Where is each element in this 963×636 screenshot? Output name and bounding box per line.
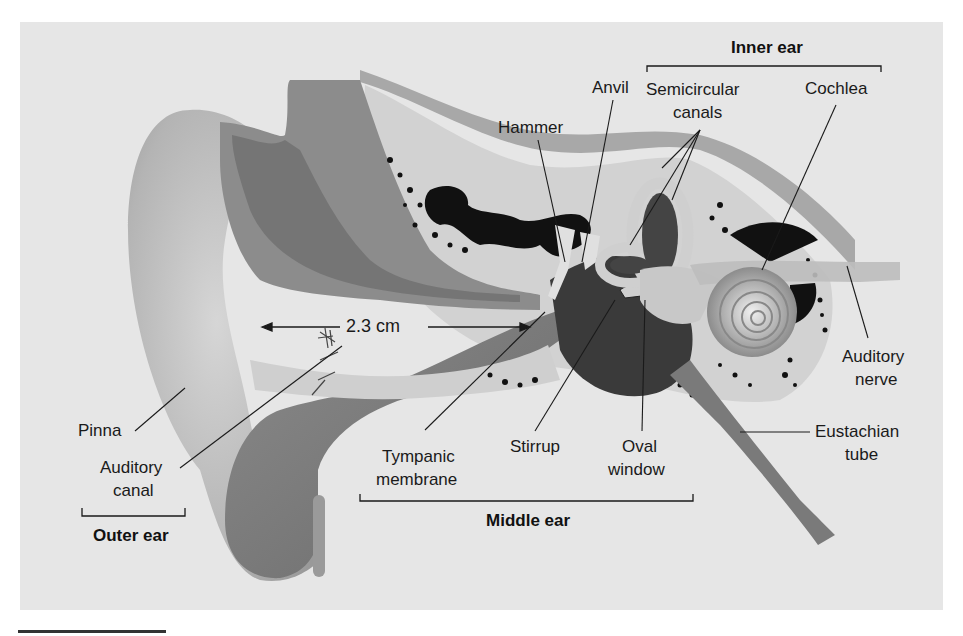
caption-rule — [18, 630, 166, 633]
label-stirrup: Stirrup — [510, 436, 560, 457]
section-middle-ear: Middle ear — [486, 511, 570, 531]
label-tympanic-line2: membrane — [376, 469, 457, 490]
label-tympanic-line1: Tympanic — [382, 446, 455, 467]
label-auditory-nerve-line1: Auditory — [842, 346, 904, 367]
label-auditory-nerve-line2: nerve — [855, 369, 898, 390]
label-hammer: Hammer — [498, 117, 563, 138]
label-auditory-canal-line1: Auditory — [100, 457, 162, 478]
label-semicircular-line1: Semicircular — [646, 79, 740, 100]
label-cochlea: Cochlea — [805, 78, 867, 99]
label-anvil: Anvil — [592, 77, 629, 98]
section-inner-ear: Inner ear — [731, 38, 803, 58]
label-semicircular-line2: canals — [673, 102, 722, 123]
section-outer-ear: Outer ear — [93, 526, 169, 546]
label-eustachian-line2: tube — [845, 444, 878, 465]
label-eustachian-line1: Eustachian — [815, 421, 899, 442]
label-oval-line2: window — [608, 459, 665, 480]
label-oval-line1: Oval — [622, 436, 657, 457]
label-auditory-canal-line2: canal — [113, 480, 154, 501]
label-measurement: 2.3 cm — [346, 316, 400, 337]
earlobe-tab — [313, 495, 325, 577]
label-pinna: Pinna — [78, 420, 121, 441]
